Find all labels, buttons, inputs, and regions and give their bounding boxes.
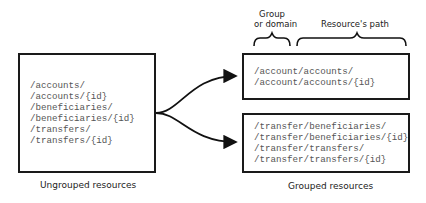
account-group-box: /account/accounts/ /account/accounts/{id… xyxy=(242,53,410,100)
path-item: /transfer/transfers/ xyxy=(254,143,408,154)
ungrouped-caption: Ungrouped resources xyxy=(40,180,136,190)
header-group-line1: Group xyxy=(254,9,290,19)
transfer-group-box: /transfer/beneficiaries/ /transfer/benef… xyxy=(242,113,410,173)
path-item: /transfer/beneficiaries/{id} xyxy=(254,132,408,143)
path-item: /transfers/ xyxy=(30,124,154,135)
ungrouped-resources-box: /accounts/ /accounts/{id} /beneficiaries… xyxy=(18,53,156,173)
path-item: /accounts/{id} xyxy=(30,91,154,102)
path-item: /transfer/beneficiaries/ xyxy=(254,121,408,132)
path-item: /accounts/ xyxy=(30,80,154,91)
arrow-to-transfer-icon xyxy=(156,113,236,142)
group-brace-icon xyxy=(254,33,290,46)
path-item: /beneficiaries/{id} xyxy=(30,113,154,124)
header-group-line2: or domain xyxy=(254,19,290,29)
path-item: /transfer/transfers/{id} xyxy=(254,154,408,165)
path-item: /beneficiaries/ xyxy=(30,102,154,113)
header-path-label: Resource's path xyxy=(321,19,389,29)
header-resource-path: Resource's path xyxy=(310,19,400,29)
path-item: /account/accounts/{id} xyxy=(254,77,408,88)
path-item: /transfers/{id} xyxy=(30,135,154,146)
path-item: /account/accounts/ xyxy=(254,66,408,77)
header-group-or-domain: Group or domain xyxy=(254,9,290,29)
arrow-to-account-icon xyxy=(156,76,236,113)
grouped-caption: Grouped resources xyxy=(288,181,373,191)
path-brace-icon xyxy=(297,33,406,46)
